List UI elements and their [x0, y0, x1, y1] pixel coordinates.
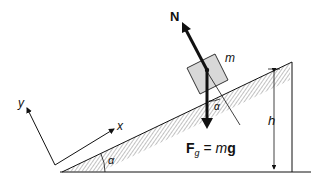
gravity-equals: =: [200, 140, 216, 156]
axis-x-label: x: [116, 119, 124, 133]
gravity-m: m: [216, 140, 228, 156]
axis-y: [27, 108, 55, 165]
axis-y-label: y: [17, 96, 25, 110]
gravity-force-label: Fg = mg: [186, 140, 236, 158]
block-angle-label: α: [214, 101, 220, 112]
gravity-force-arrowhead: [201, 118, 213, 129]
normal-force-label: N: [170, 9, 179, 24]
gravity-g: g: [227, 140, 236, 156]
height-label: h: [268, 113, 275, 128]
base-angle-label: α: [108, 154, 115, 166]
incline-surface: [62, 62, 292, 172]
mass-label: m: [225, 51, 235, 65]
inclined-plane-diagram: h α y x m α N Fg = mg: [0, 0, 311, 180]
